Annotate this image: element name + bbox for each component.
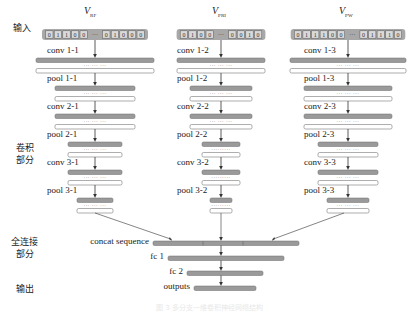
input-bit-value: 0 [331, 32, 334, 38]
dense-layer-label: fc 2 [169, 267, 183, 276]
layer-label: conv 3-2 [177, 158, 209, 167]
layer-arrow-head-icon [219, 166, 223, 170]
feature-map-dots: ········· [211, 147, 231, 152]
feature-map-dots: ········· [211, 175, 231, 180]
dense-layer-bar [194, 286, 256, 291]
layer-arrow-head-icon [219, 138, 223, 142]
conv-section-label-line2: 部分 [16, 154, 34, 166]
feature-map-bar [318, 170, 378, 175]
conv-section-label: 卷积 部分 [16, 142, 34, 166]
input-bit-value: 0 [82, 32, 85, 38]
input-bit-value: 0 [131, 32, 134, 38]
fc-section-label-line2: 部分 [11, 248, 38, 260]
input-bit-value: 0 [340, 32, 343, 38]
layer-arrow-head-icon [93, 166, 97, 170]
input-bit-value: 0 [139, 32, 142, 38]
input-bit-value: 0 [362, 32, 365, 38]
layer-label: pool 1-3 [304, 74, 334, 83]
feature-map-dots: ··· ··· ··· [210, 119, 233, 124]
input-bit-value: 1 [379, 32, 382, 38]
dense-arrow-head-icon [219, 282, 223, 286]
feature-map-dots: ··· ··· ··· [337, 203, 360, 208]
input-bit-value: 1 [305, 32, 308, 38]
feature-map-bar [68, 142, 122, 147]
feature-map-dots: ··· ··· ··· [84, 175, 107, 180]
input-bit-value: 1 [65, 32, 68, 38]
input-bit-value: 1 [113, 32, 116, 38]
feature-map-dots: ··· ··· ··· [337, 147, 360, 152]
input-bit-value: 1 [248, 32, 251, 38]
layer-label: pool 2-2 [177, 130, 207, 139]
feature-map-dots: ········· [211, 203, 231, 208]
layer-label: conv 3-3 [304, 158, 336, 167]
layer-arrow-head-icon [346, 194, 350, 198]
feature-map-bar [304, 86, 392, 91]
feature-map-bar [327, 198, 369, 203]
feature-map-bar [190, 86, 252, 91]
feature-map-bar [190, 114, 252, 119]
input-bit-value: 0 [297, 32, 300, 38]
column-title-rf: VRF [84, 6, 96, 18]
feature-map-bar [210, 198, 232, 203]
column-title-pri: VPRI [212, 6, 226, 18]
feature-map-bar [55, 86, 135, 91]
input-bit-value: 0 [257, 32, 260, 38]
figure-caption: 图 3 多分支一维卷积神经网络结构 [0, 302, 419, 312]
dense-arrow-head-icon [219, 267, 223, 271]
feature-map-dots: ··· ··· ··· [337, 119, 360, 124]
concat-sequence-bar [153, 241, 299, 246]
layer-label: pool 3-2 [177, 186, 207, 195]
title-sub: PRI [218, 13, 226, 18]
input-bit-value: 1 [371, 32, 374, 38]
feature-map-dots: ··· ··· ··· [337, 91, 360, 96]
dense-layer-bar [187, 271, 263, 276]
feature-map-bar [318, 142, 378, 147]
layer-label: pool 2-3 [304, 130, 334, 139]
layer-label: pool 3-1 [47, 186, 77, 195]
input-bit-value: 1 [388, 32, 391, 38]
layer-arrow-head-icon [219, 194, 223, 198]
feature-map-outline-bar [77, 209, 113, 214]
dense-layer-bar [168, 256, 284, 261]
dense-layer-label: outputs [163, 282, 190, 291]
input-bit-value: 0 [208, 32, 211, 38]
fc-section-label-line1: 全连接 [11, 236, 38, 248]
input-bit-value: 0 [182, 32, 185, 38]
input-section-label: 输入 [13, 22, 31, 34]
dense-layer-label: fc 1 [150, 252, 164, 261]
fc-section-label: 全连接 部分 [11, 236, 38, 260]
feature-map-outline-bar [327, 209, 369, 214]
input-bit-value: 0 [200, 32, 203, 38]
input-bit-value: 0 [397, 32, 400, 38]
title-sub: RF [90, 13, 96, 18]
input-ellipsis: ··· [218, 32, 224, 38]
feature-map-bar [55, 114, 135, 119]
layer-arrow-head-icon [93, 54, 97, 58]
layer-arrow-head-icon [346, 166, 350, 170]
layer-label: pool 2-1 [47, 130, 77, 139]
layer-label: conv 1-2 [177, 46, 209, 55]
layer-label: conv 3-1 [47, 158, 79, 167]
feature-map-bar [36, 58, 154, 63]
input-bit-value: 1 [314, 32, 317, 38]
feature-map-dots: ··· ··· ··· [84, 63, 107, 68]
input-bit-value: 0 [239, 32, 242, 38]
feature-map-dots: ··· ··· ··· [84, 119, 107, 124]
layer-label: conv 1-3 [304, 46, 336, 55]
feature-map-bar [77, 198, 113, 203]
concat-arrow-head-icon [272, 237, 275, 241]
layer-label: conv 2-3 [304, 102, 336, 111]
feature-map-dots: ··· ··· ··· [84, 91, 107, 96]
feature-map-outline-bar [210, 209, 232, 214]
dense-layer-label: concat sequence [90, 237, 149, 246]
cnn-architecture-diagram: 01100···01000··· ··· ······ ··· ······ ·… [0, 0, 419, 314]
feature-map-dots: ··· ··· ··· [84, 147, 107, 152]
conv-section-label-line1: 卷积 [16, 142, 34, 154]
input-bit-value: 0 [231, 32, 234, 38]
input-bit-value: 0 [48, 32, 51, 38]
feature-map-bar [68, 170, 122, 175]
feature-map-bar [304, 114, 392, 119]
feature-map-dots: ··· ··· ··· [337, 175, 360, 180]
dense-arrow-head-icon [219, 252, 223, 256]
input-bit-value: 0 [74, 32, 77, 38]
